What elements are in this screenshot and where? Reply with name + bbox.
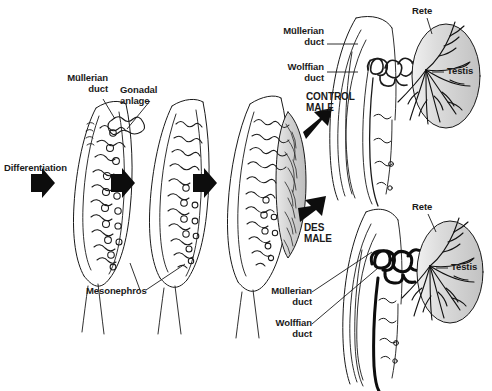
- label-control-male: CONTROL MALE: [306, 91, 362, 113]
- label-des-male: DES MALE: [304, 222, 344, 244]
- label-differentiation: Differentiation: [4, 163, 88, 174]
- label-rete-bottom: Rete: [412, 202, 452, 213]
- label-mesonephros: Mesonephros: [86, 286, 176, 297]
- label-testis-top: Testis: [447, 66, 491, 77]
- label-wolffian-duct-top: Wolffian duct: [258, 62, 324, 83]
- label-mullerian-duct-top: Müllerian duct: [258, 26, 324, 47]
- label-rete-top: Rete: [412, 6, 452, 17]
- label-gonadal-anlage: Gonadal anlage: [120, 85, 190, 106]
- label-mullerian-duct: Müllerian duct: [46, 73, 108, 94]
- label-testis-bottom: Testis: [451, 262, 492, 273]
- label-wolffian-duct-bottom: Wolffian duct: [246, 318, 312, 339]
- label-mullerian-duct-bottom: Müllerian duct: [246, 286, 312, 307]
